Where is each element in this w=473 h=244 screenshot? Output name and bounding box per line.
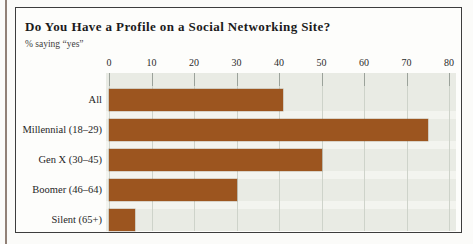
tick-mark [449, 73, 450, 86]
category-label: Millennial (18–29) [16, 119, 105, 141]
row-gap [106, 171, 456, 179]
tick-mark [364, 73, 365, 86]
bar [109, 179, 237, 201]
x-tick-label: 30 [225, 57, 249, 68]
tick-mark [152, 73, 153, 86]
x-tick-label: 70 [395, 57, 419, 68]
row-gap [106, 201, 456, 209]
chart-subtitle: % saying “yes” [25, 39, 84, 49]
tick-mark [194, 73, 195, 86]
gridline [407, 73, 408, 231]
bar [109, 119, 428, 141]
x-tick-label: 60 [352, 57, 376, 68]
page-margin-rule [5, 0, 7, 244]
gridline [449, 73, 450, 231]
x-tick-label: 80 [437, 57, 461, 68]
x-tick-label: 40 [267, 57, 291, 68]
tick-mark [109, 73, 110, 86]
x-tick-label: 50 [310, 57, 334, 68]
gridline [322, 73, 323, 231]
x-tick-label: 10 [140, 57, 164, 68]
bar [109, 89, 283, 111]
category-label: Boomer (46–64) [16, 179, 105, 201]
x-tick-label: 0 [97, 57, 121, 68]
gridline [364, 73, 365, 231]
x-tick-label: 20 [182, 57, 206, 68]
category-label: All [16, 89, 105, 111]
tick-mark [322, 73, 323, 86]
category-label: Silent (65+) [16, 209, 105, 231]
bar [109, 209, 135, 231]
page: Do You Have a Profile on a Social Networ… [0, 0, 473, 244]
row-gap [106, 111, 456, 119]
row-gap [106, 141, 456, 149]
category-label: Gen X (30–45) [16, 149, 105, 171]
bar [109, 149, 322, 171]
tick-mark [407, 73, 408, 86]
tick-mark [279, 73, 280, 86]
chart-title: Do You Have a Profile on a Social Networ… [25, 19, 331, 35]
tick-mark [237, 73, 238, 86]
chart-frame: Do You Have a Profile on a Social Networ… [15, 7, 462, 233]
